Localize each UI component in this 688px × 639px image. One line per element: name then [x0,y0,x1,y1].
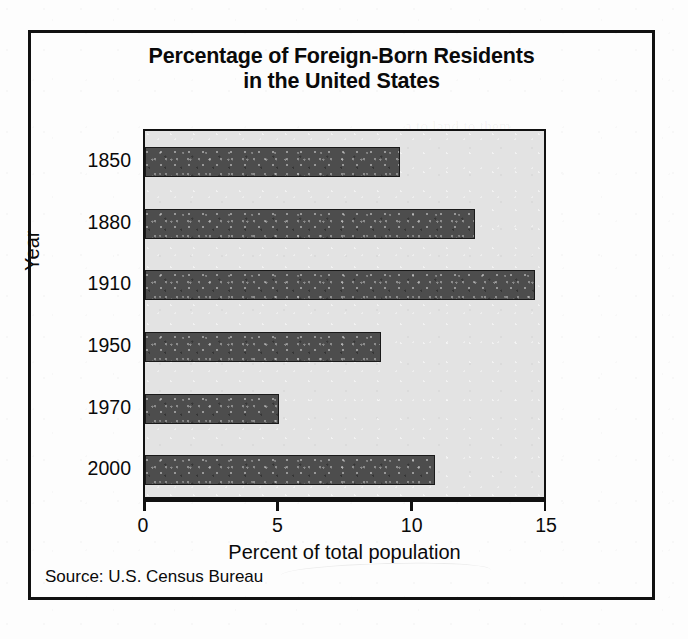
bar-1910 [145,270,535,300]
bar-series [145,131,544,497]
chart-title-line-2: in the United States [31,69,652,94]
y-tick-label-1880: 1880 [31,212,131,232]
y-axis-label: Year [21,231,44,271]
bar-row [145,209,548,239]
x-tick-label-0: 0 [138,514,149,537]
x-tick-10 [410,499,413,511]
bar-1970 [145,394,279,424]
x-axis-line [143,499,546,502]
chart-title-line-1: Percentage of Foreign-Born Residents [31,44,652,69]
source-note: Source: U.S. Census Bureau [45,567,263,587]
bar-1950 [145,332,381,362]
x-tick-label-10: 10 [401,514,423,537]
x-tick-0 [143,499,146,511]
y-tick-label-1950: 1950 [31,335,131,355]
x-axis-label: Percent of total population [143,541,546,564]
y-tick-label-1850: 1850 [31,150,131,170]
bar-row [145,332,548,362]
y-tick-label-1970: 1970 [31,397,131,417]
plot-area [143,129,546,499]
bar-row [145,270,548,300]
chart-figure: Percentage of Foreign-Born Residents in … [28,30,655,600]
bar-1880 [145,209,475,239]
x-tick-15 [544,499,547,511]
bar-row [145,147,548,177]
y-tick-label-1910: 1910 [31,273,131,293]
bar-row [145,455,548,485]
bar-1850 [145,147,400,177]
bar-row [145,394,548,424]
x-tick-label-15: 15 [535,514,557,537]
chart-title: Percentage of Foreign-Born Residents in … [31,44,652,94]
y-tick-label-2000: 2000 [31,458,131,478]
x-tick-label-5: 5 [272,514,283,537]
x-tick-5 [276,499,279,511]
bar-2000 [145,455,435,485]
